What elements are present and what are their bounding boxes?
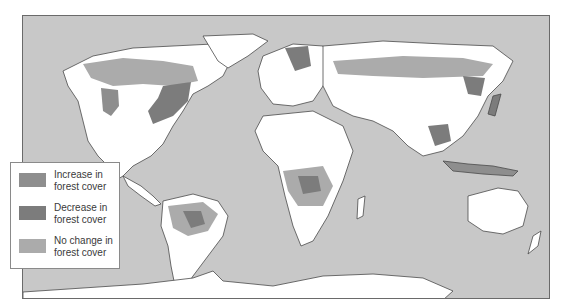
decrease-swatch (19, 206, 46, 220)
legend-label-decrease: Decrease in forest cover (54, 202, 107, 226)
legend-item-no-change: No change in forest cover (19, 235, 119, 268)
legend-label-line1: No change in (54, 235, 113, 247)
legend-item-decrease: Decrease in forest cover (19, 202, 119, 235)
legend-label-line2: forest cover (54, 181, 106, 193)
australia (468, 188, 528, 234)
legend-item-increase: Increase in forest cover (19, 169, 119, 202)
legend-label-no-change: No change in forest cover (54, 235, 113, 259)
legend-label-line2: forest cover (54, 214, 107, 226)
siberia-forest-no-change (333, 56, 493, 78)
legend-label-line1: Increase in (54, 169, 106, 181)
legend: Increase in forest cover Decrease in for… (10, 162, 120, 269)
no-change-swatch (19, 239, 46, 253)
increase-swatch (19, 173, 46, 187)
legend-label-line2: forest cover (54, 247, 113, 259)
legend-label-line1: Decrease in (54, 202, 107, 214)
legend-label-increase: Increase in forest cover (54, 169, 106, 193)
